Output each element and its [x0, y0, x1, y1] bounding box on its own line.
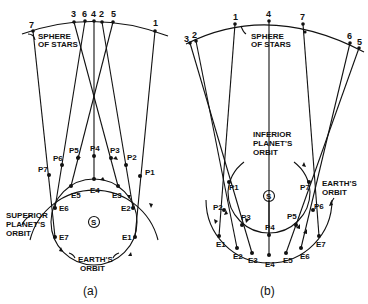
svg-text:P7: P7 [300, 183, 310, 192]
svg-text:2: 2 [99, 9, 104, 19]
planet-orbit-label-a-1: SUPERIOR [6, 211, 48, 220]
earth-orbit-label-b-1: EARTH'S [322, 179, 357, 188]
svg-text:5: 5 [357, 37, 362, 47]
planet-orbit-label-a-3: ORBIT [6, 229, 31, 238]
sun-label-a: S [91, 218, 97, 227]
svg-text:4: 4 [266, 9, 271, 19]
sight-lines-a [33, 21, 155, 237]
svg-text:E4: E4 [265, 260, 275, 269]
svg-text:P1: P1 [145, 168, 155, 177]
svg-text:P4: P4 [90, 144, 100, 153]
svg-text:7: 7 [29, 20, 34, 30]
caption-b: (b) [260, 284, 275, 298]
sphere-label-a-line2: OF STARS [38, 40, 79, 49]
svg-text:E5: E5 [71, 191, 81, 200]
earth-orbit-label-a-1: EARTH'S [78, 255, 113, 264]
svg-text:3: 3 [71, 9, 76, 19]
svg-text:1: 1 [233, 12, 238, 22]
planet-labels-a: P1 P2 P3 P4 P5 P6 P7 [38, 144, 155, 177]
svg-text:3: 3 [184, 34, 189, 44]
sun-label-b: S [266, 192, 272, 201]
svg-text:P3: P3 [110, 146, 120, 155]
svg-text:P5: P5 [287, 212, 297, 221]
earth-orbit-label-b-2: ORBIT [322, 188, 347, 197]
svg-text:P5: P5 [69, 146, 79, 155]
svg-text:P6: P6 [314, 202, 324, 211]
svg-text:E2: E2 [121, 204, 131, 213]
svg-text:E7: E7 [59, 233, 69, 242]
svg-text:P1: P1 [229, 183, 239, 192]
svg-text:E5: E5 [283, 256, 293, 265]
earth-labels-b: E1 E2 E3 E4 E5 E6 E7 [216, 240, 326, 269]
svg-text:P7: P7 [38, 165, 48, 174]
svg-text:E4: E4 [90, 186, 100, 195]
svg-text:E3: E3 [112, 191, 122, 200]
planet-orbit-label-a-2: PLANET'S [6, 220, 46, 229]
svg-text:P3: P3 [241, 213, 251, 222]
svg-text:E2: E2 [233, 252, 243, 261]
svg-text:5: 5 [111, 9, 116, 19]
orbit-arrow-icon [113, 156, 118, 160]
svg-text:P6: P6 [53, 154, 63, 163]
svg-text:6: 6 [347, 31, 352, 41]
svg-text:E3: E3 [248, 256, 258, 265]
svg-text:4: 4 [91, 9, 96, 19]
planet-orbit-label-b-3: ORBIT [253, 148, 278, 157]
sphere-pointer-b [241, 26, 246, 34]
planetary-motion-diagram: 7 3 6 4 2 5 1 SPHERE OF STARS P1 P2 P3 P… [0, 0, 368, 304]
earth-orbit-label-a-2: ORBIT [80, 264, 105, 273]
svg-text:2: 2 [192, 30, 197, 40]
planet-orbit-label-b-2: PLANET'S [253, 139, 293, 148]
sphere-label-b-line2: OF STARS [251, 40, 292, 49]
panel-a: 7 3 6 4 2 5 1 SPHERE OF STARS P1 P2 P3 P… [6, 9, 168, 298]
svg-text:6: 6 [82, 9, 87, 19]
svg-text:E6: E6 [59, 204, 69, 213]
orbit-arrow-icon [302, 162, 306, 167]
svg-text:7: 7 [300, 12, 305, 22]
caption-a: (a) [83, 284, 98, 298]
panel-b: 3 2 1 4 7 6 5 SPHERE OF STARS P1 P2 P3 P… [184, 9, 364, 298]
planet-orbit-label-b-1: INFERIOR [253, 130, 291, 139]
svg-text:P2: P2 [127, 153, 137, 162]
orbit-arrow-icon [149, 203, 153, 208]
svg-text:E1: E1 [122, 233, 132, 242]
svg-text:E7: E7 [316, 240, 326, 249]
svg-text:P4: P4 [265, 223, 275, 232]
orbit-arrow-icon [128, 252, 132, 256]
orbit-arrow-icon [214, 219, 218, 224]
svg-text:E6: E6 [300, 252, 310, 261]
svg-text:E1: E1 [216, 240, 226, 249]
svg-text:P2: P2 [213, 203, 223, 212]
svg-text:1: 1 [153, 18, 158, 28]
